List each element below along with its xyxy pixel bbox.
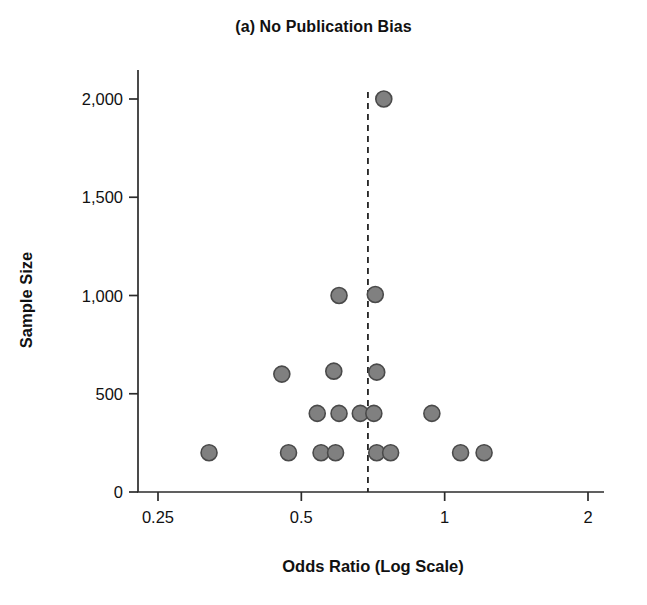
x-axis-ticks: 0.250.512 bbox=[142, 492, 593, 526]
scatter-point bbox=[476, 445, 492, 461]
scatter-plot-canvas: Odds Ratio (Log Scale) Sample Size 05001… bbox=[0, 0, 647, 605]
scatter-point bbox=[201, 445, 217, 461]
y-tick-label: 1,000 bbox=[82, 287, 123, 305]
scatter-point bbox=[369, 364, 385, 380]
scatter-point bbox=[453, 445, 469, 461]
data-points bbox=[201, 91, 492, 461]
y-tick-label: 0 bbox=[114, 483, 123, 501]
x-tick-label: 1 bbox=[440, 508, 449, 526]
scatter-point bbox=[331, 405, 347, 421]
x-tick-label: 0.25 bbox=[142, 508, 174, 526]
y-tick-label: 500 bbox=[95, 385, 123, 403]
scatter-point bbox=[424, 405, 440, 421]
scatter-point bbox=[376, 91, 392, 107]
x-tick-label: 2 bbox=[583, 508, 592, 526]
scatter-point bbox=[281, 445, 297, 461]
scatter-point bbox=[326, 363, 342, 379]
funnel-plot-figure: (a) No Publication Bias Odds Ratio (Log … bbox=[0, 0, 647, 605]
y-axis-ticks: 05001,0001,5002,000 bbox=[82, 90, 138, 501]
y-axis-title: Sample Size bbox=[17, 252, 35, 348]
y-tick-label: 1,500 bbox=[82, 188, 123, 206]
scatter-point bbox=[328, 445, 344, 461]
scatter-point bbox=[331, 288, 347, 304]
scatter-point bbox=[274, 366, 290, 382]
scatter-point bbox=[309, 405, 325, 421]
scatter-point bbox=[313, 445, 329, 461]
scatter-point bbox=[366, 405, 382, 421]
y-tick-label: 2,000 bbox=[82, 90, 123, 108]
scatter-point bbox=[383, 445, 399, 461]
scatter-point bbox=[367, 287, 383, 303]
x-tick-label: 0.5 bbox=[290, 508, 313, 526]
x-axis-title: Odds Ratio (Log Scale) bbox=[282, 557, 464, 575]
